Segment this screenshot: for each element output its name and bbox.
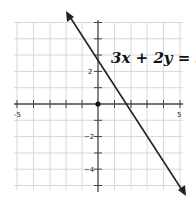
y-tick-label-neg4: −4 bbox=[84, 166, 95, 174]
equation-label: 3x + 2y = 5 bbox=[111, 49, 196, 67]
x-tick-label-max: 5 bbox=[177, 111, 181, 119]
coordinate-plane: -5 5 2 −2 −4 3x + 2y = 5 bbox=[0, 0, 196, 202]
y-tick-label-neg2: −2 bbox=[84, 133, 94, 141]
x-tick-label-min: -5 bbox=[14, 111, 21, 119]
origin-point bbox=[95, 101, 100, 106]
y-tick-label-2: 2 bbox=[88, 68, 92, 76]
